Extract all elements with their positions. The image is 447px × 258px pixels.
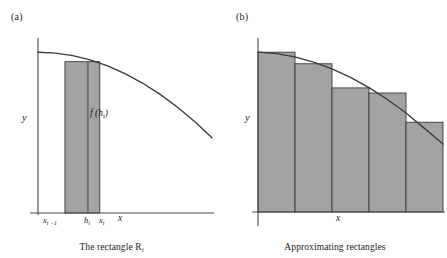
panel-a-tick-x-i-minus-1: xi −1	[43, 215, 57, 225]
panel-b-rectangle-5	[406, 122, 443, 212]
panel-a-bar-value-label: f (hi)	[90, 108, 108, 118]
panel-b-caption: Approximating rectangles	[223, 242, 447, 252]
panel-b-rectangle-3	[332, 88, 369, 212]
panel-b-y-axis-label: y	[245, 112, 250, 123]
panel-a-function-curve	[38, 52, 212, 138]
panel-a-x-axis-label: x	[118, 213, 122, 223]
panel-b-rectangle-2	[295, 64, 332, 212]
panel-b-rectangle-1	[258, 52, 295, 212]
panel-a: (a) y xi −1 hi xi x f (hi) The rectangle…	[0, 0, 223, 258]
panel-b-x-axis-label: x	[336, 213, 340, 223]
panel-a-caption: The rectangle Ri	[0, 242, 223, 252]
panel-a-rectangle-ri	[65, 62, 100, 213]
panel-b: (b) y x Approximating rectangles	[223, 0, 447, 258]
panel-a-plot	[0, 0, 223, 258]
figure-root: (a) y xi −1 hi xi x f (hi) The rectangle…	[0, 0, 447, 258]
panel-b-rectangle-4	[369, 93, 406, 212]
panel-a-y-axis-label: y	[22, 112, 27, 123]
panel-a-tick-h-i: hi	[84, 215, 90, 225]
panel-a-tick-x-i: xi	[99, 215, 104, 225]
panel-b-plot	[223, 0, 447, 258]
